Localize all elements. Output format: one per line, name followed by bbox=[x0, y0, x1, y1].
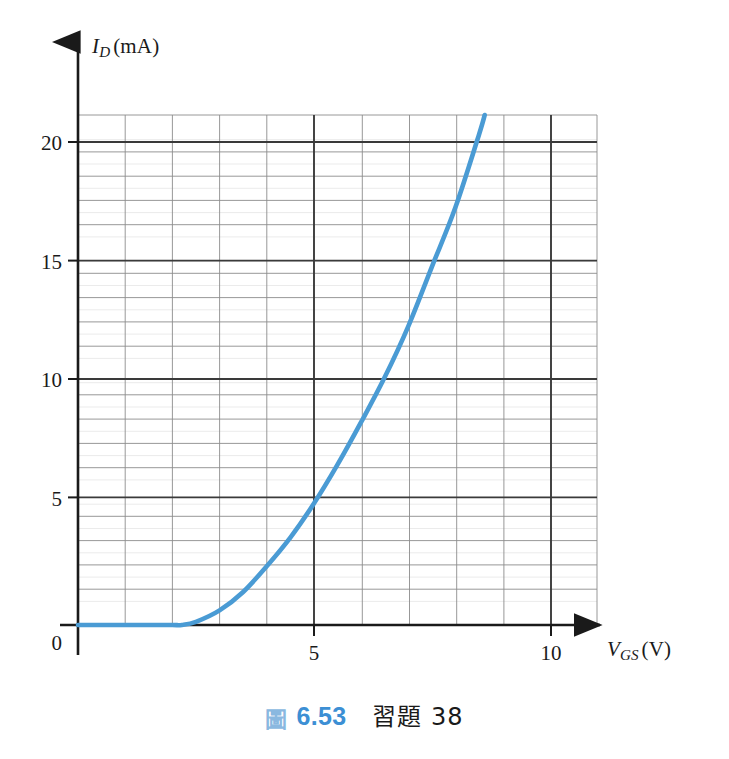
x-axis-label-variable: V bbox=[607, 637, 620, 661]
x-axis-label-unit: (V) bbox=[642, 637, 672, 661]
figure-caption: 圖6.53習題 38 bbox=[0, 697, 729, 733]
y-tick-label-20: 20 bbox=[20, 131, 62, 156]
fine-gridlines bbox=[78, 140, 597, 602]
y-axis-label-subscript: D bbox=[99, 44, 110, 60]
minor-gridlines-vertical bbox=[125, 115, 597, 625]
x-tick-label-10: 10 bbox=[531, 641, 571, 666]
y-axis-label-unit: (mA) bbox=[113, 34, 159, 58]
x-axis-label-subscript: GS bbox=[620, 647, 638, 663]
x-axis-label: VGS(V) bbox=[607, 637, 671, 664]
figure-caption-text: 習題 38 bbox=[372, 697, 463, 732]
origin-tick-label-0: 0 bbox=[20, 631, 62, 656]
y-axis-label: ID(mA) bbox=[92, 34, 159, 61]
x-axis-ticks bbox=[314, 625, 551, 636]
minor-gridlines-horizontal bbox=[78, 115, 597, 589]
figure-container: ID(mA) VGS(V) 20 15 10 5 0 5 10 圖6.53習題 … bbox=[0, 0, 729, 759]
y-axis-ticks bbox=[68, 142, 78, 497]
major-gridlines bbox=[78, 115, 597, 625]
figure-number: 6.53 bbox=[296, 702, 346, 731]
y-tick-label-5: 5 bbox=[20, 487, 62, 512]
chart-plot-area bbox=[0, 0, 729, 700]
y-tick-label-15: 15 bbox=[20, 250, 62, 275]
y-tick-label-10: 10 bbox=[20, 368, 62, 393]
figure-glyph-icon: 圖 bbox=[265, 701, 287, 733]
x-tick-label-5: 5 bbox=[294, 641, 334, 666]
transfer-characteristic-curve bbox=[78, 115, 485, 625]
